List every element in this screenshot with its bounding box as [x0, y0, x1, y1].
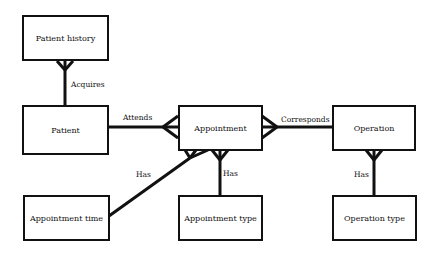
entity-patient-history: Patient history [22, 15, 109, 61]
relationship-label-corresponds: Corresponds [281, 115, 330, 124]
entity-appointment: Appointment [178, 105, 263, 151]
entity-operation: Operation [332, 105, 416, 151]
entity-label: Appointment type [184, 214, 257, 223]
relationship-label-has-optype: Has [354, 170, 369, 179]
entity-operation-type: Operation type [332, 195, 417, 241]
relationship-label-acquires: Acquires [71, 80, 105, 89]
entity-patient: Patient [22, 105, 109, 155]
entity-label: Appointment [194, 124, 246, 133]
entity-label: Operation [354, 124, 395, 133]
relationship-label-attends: Attends [123, 113, 152, 122]
relationship-label-has-type: Has [223, 169, 238, 178]
relationship-label-has-time: Has [136, 170, 151, 179]
entity-appointment-type: Appointment type [178, 195, 263, 241]
entity-appointment-time: Appointment time [23, 195, 110, 241]
entity-label: Patient history [36, 34, 95, 43]
entity-label: Appointment time [30, 214, 103, 223]
entity-label: Operation type [344, 214, 405, 223]
entity-label: Patient [51, 126, 80, 135]
